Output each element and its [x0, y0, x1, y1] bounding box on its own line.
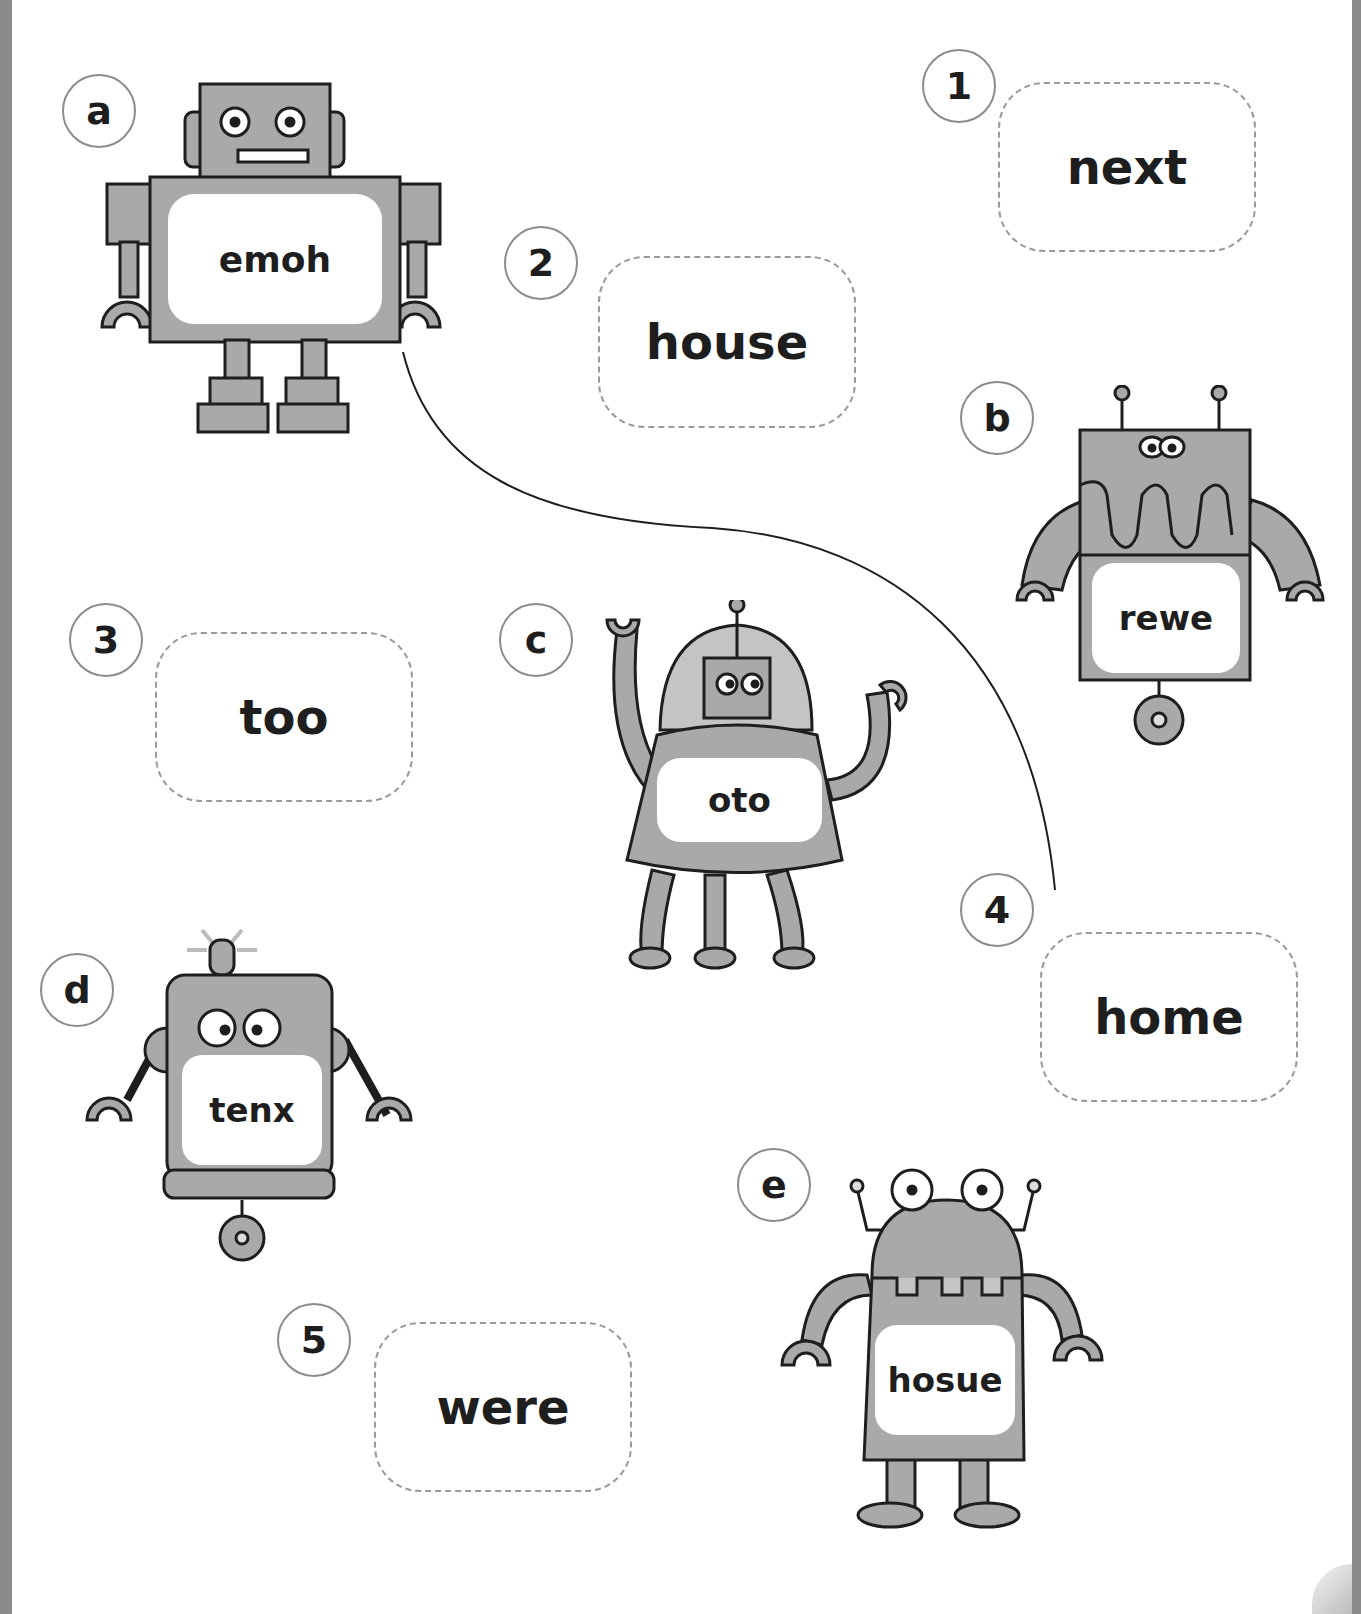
answer-number-2-text: 2 [528, 241, 554, 285]
robot-a-word: emoh [168, 194, 382, 324]
answer-box-4[interactable]: home [1040, 932, 1298, 1102]
robot-label-c: c [499, 603, 573, 677]
robot-c: oto [602, 600, 942, 970]
robot-label-c-text: c [525, 618, 548, 662]
answer-number-1-text: 1 [946, 64, 972, 108]
robot-e-word: hosue [875, 1325, 1015, 1435]
answer-word-3: too [240, 689, 329, 745]
robot-b-word: rewe [1092, 563, 1240, 673]
robot-a: emoh [90, 82, 450, 442]
page-edge-right [1352, 0, 1361, 1614]
answer-word-1: next [1067, 139, 1188, 195]
answer-number-4: 4 [960, 873, 1034, 947]
robot-c-word: oto [657, 758, 822, 842]
answer-number-2: 2 [504, 226, 578, 300]
answer-number-4-text: 4 [984, 888, 1010, 932]
answer-box-5[interactable]: were [374, 1322, 632, 1492]
robot-label-b-text: b [983, 396, 1010, 440]
answer-box-2[interactable]: house [598, 256, 856, 428]
answer-word-4: home [1094, 989, 1244, 1045]
robot-b: rewe [1012, 385, 1332, 755]
answer-number-5: 5 [277, 1303, 351, 1377]
robot-e: hosue [772, 1160, 1122, 1535]
robot-d-word: tenx [182, 1055, 322, 1165]
answer-number-3: 3 [69, 603, 143, 677]
answer-box-3[interactable]: too [155, 632, 413, 802]
answer-word-2: house [646, 314, 808, 370]
answer-box-1[interactable]: next [998, 82, 1256, 252]
page-edge-left [0, 0, 12, 1614]
answer-number-3-text: 3 [93, 618, 119, 662]
robot-d: tenx [67, 920, 437, 1275]
answer-number-5-text: 5 [301, 1318, 327, 1362]
answer-word-5: were [436, 1379, 569, 1435]
answer-number-1: 1 [922, 49, 996, 123]
worksheet-page: a [12, 0, 1352, 1614]
